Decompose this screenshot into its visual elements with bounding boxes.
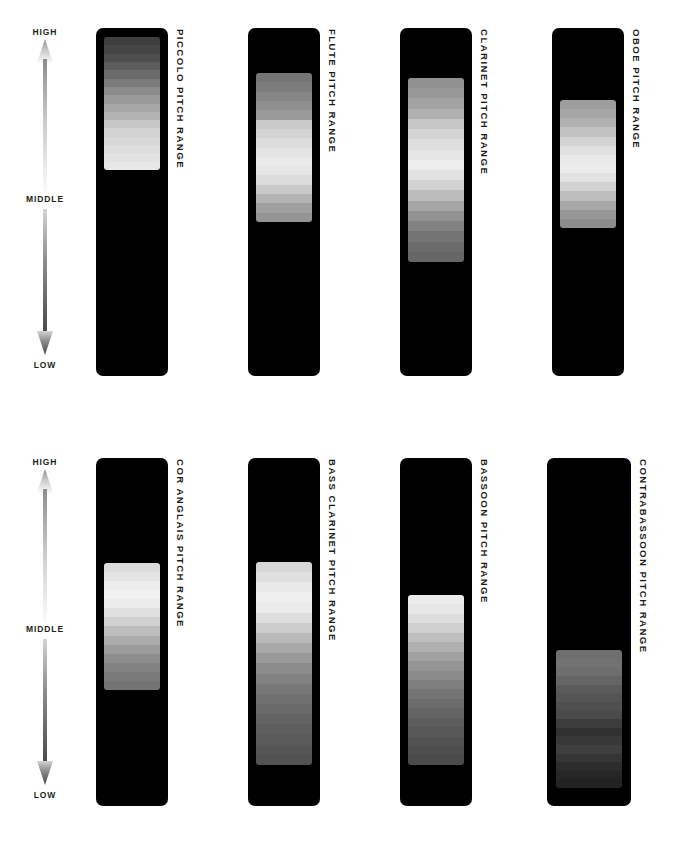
pitch-band: [560, 127, 616, 136]
pitch-band: [560, 173, 616, 182]
pitch-band: [556, 693, 622, 702]
instrument-column-oboe[interactable]: OBOE PITCH RANGE: [0, 0, 680, 430]
instrument-row-1: HIGH MIDDLE: [0, 0, 680, 430]
pitch-band: [556, 745, 622, 754]
pitch-canvas-card: [552, 28, 624, 376]
pitch-band: [556, 754, 622, 763]
pitch-band: [560, 155, 616, 164]
pitch-band: [560, 137, 616, 146]
pitch-band: [556, 659, 622, 668]
pitch-band: [556, 771, 622, 780]
pitch-band: [560, 210, 616, 219]
pitch-band: [560, 219, 616, 228]
pitch-band: [556, 779, 622, 788]
instrument-label: CONTRABASSOON PITCH RANGE: [638, 459, 648, 654]
pitch-band: [556, 736, 622, 745]
instrument-label: OBOE PITCH RANGE: [631, 29, 641, 149]
pitch-band: [560, 164, 616, 173]
pitch-band: [556, 762, 622, 771]
pitch-band: [556, 650, 622, 659]
pitch-band: [560, 201, 616, 210]
pitch-band: [556, 719, 622, 728]
pitch-band: [560, 100, 616, 109]
infographic-canvas: HIGH MIDDLE: [0, 0, 680, 859]
pitch-band: [556, 667, 622, 676]
pitch-range-bar[interactable]: [556, 650, 622, 788]
pitch-band: [556, 702, 622, 711]
instrument-row-2: HIGH MIDDLE: [0, 430, 680, 859]
pitch-band: [556, 728, 622, 737]
pitch-band: [556, 710, 622, 719]
pitch-band: [560, 118, 616, 127]
instrument-column-contrabassoon[interactable]: CONTRABASSOON PITCH RANGE: [0, 430, 680, 859]
pitch-band: [560, 146, 616, 155]
pitch-canvas-card: [547, 458, 631, 806]
pitch-range-bar[interactable]: [560, 100, 616, 228]
pitch-band: [556, 676, 622, 685]
pitch-band: [556, 685, 622, 694]
pitch-band: [560, 191, 616, 200]
pitch-band: [560, 182, 616, 191]
pitch-band: [560, 109, 616, 118]
